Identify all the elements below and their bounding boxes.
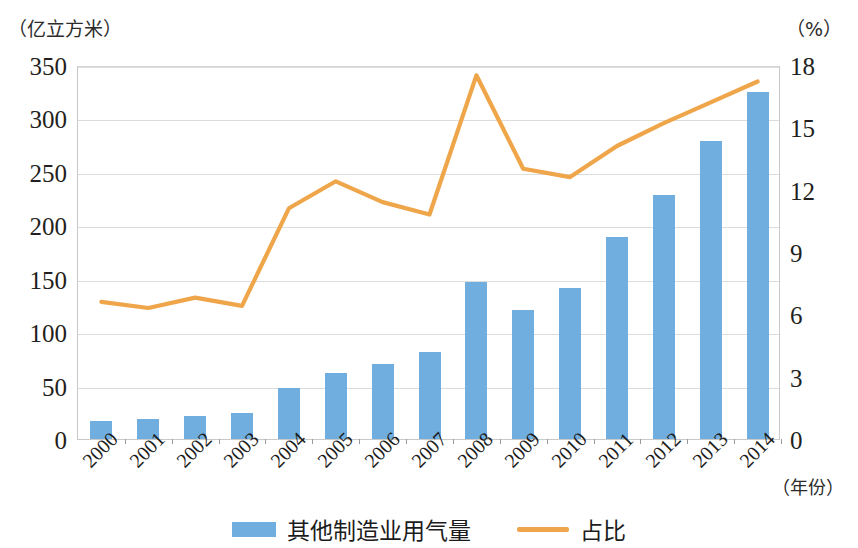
x-axis-unit-label: （年份） (772, 473, 844, 499)
right-axis-tick-label: 18 (790, 54, 850, 79)
right-axis-tick-label: 0 (790, 428, 850, 453)
left-axis-tick-label: 50 (5, 374, 67, 399)
left-axis-tick-label: 250 (5, 160, 67, 185)
right-axis-tick-label: 15 (790, 116, 850, 141)
left-axis-tick-label: 200 (5, 214, 67, 239)
legend-bar-label: 其他制造业用气量 (287, 512, 471, 546)
right-axis-unit-label: （%） (786, 14, 842, 41)
chart-legend: 其他制造业用气量 占比 (0, 512, 858, 546)
legend-item-bar: 其他制造业用气量 (232, 512, 471, 546)
left-axis-unit-label: （亿立方米） (8, 14, 122, 41)
x-axis-tickmark (781, 439, 782, 444)
right-axis-tick-label: 3 (790, 365, 850, 390)
left-axis-tick-label: 150 (5, 267, 67, 292)
left-axis-tick-label: 100 (5, 321, 67, 346)
right-axis-ticks: 0369121518 (790, 66, 850, 440)
legend-bar-swatch-icon (232, 522, 276, 537)
legend-line-label: 占比 (580, 512, 626, 546)
right-axis-tick-label: 9 (790, 241, 850, 266)
chart-plot-area (77, 66, 780, 440)
left-axis-tick-label: 350 (5, 54, 67, 79)
right-axis-tick-label: 6 (790, 303, 850, 328)
left-axis-tick-label: 0 (5, 428, 67, 453)
legend-item-line: 占比 (517, 512, 626, 546)
left-axis-tick-label: 300 (5, 107, 67, 132)
left-axis-ticks: 050100150200250300350 (5, 66, 69, 440)
line-series (78, 67, 781, 441)
right-axis-tick-label: 12 (790, 178, 850, 203)
legend-line-swatch-icon (517, 527, 569, 532)
